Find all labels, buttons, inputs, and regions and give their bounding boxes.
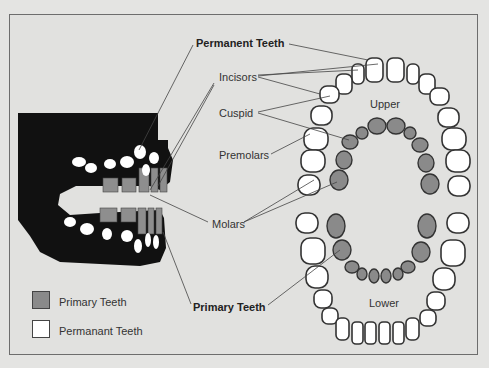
label-molars: Molars	[212, 218, 245, 230]
label-premolars: Premolars	[219, 149, 269, 161]
legend-swatch-primary	[32, 291, 50, 309]
label-upper: Upper	[370, 98, 400, 110]
upper-primary-arch	[330, 118, 439, 194]
label-primary-teeth: Primary Teeth	[193, 301, 266, 313]
legend-label-primary: Primary Teeth	[59, 296, 127, 308]
jaw-illustration	[18, 113, 173, 266]
legend-label-permanent: Permanant Teeth	[59, 325, 143, 337]
label-permanent-teeth: Permanent Teeth	[196, 37, 284, 49]
legend-swatch-permanent	[32, 320, 50, 338]
label-lower: Lower	[369, 297, 399, 309]
label-cuspid: Cuspid	[219, 107, 253, 119]
lower-primary-arch	[327, 214, 436, 283]
label-incisors: Incisors	[219, 71, 257, 83]
